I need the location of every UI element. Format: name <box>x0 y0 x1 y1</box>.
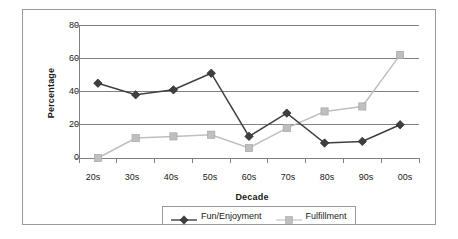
data-point-60s <box>245 144 252 151</box>
chart-frame: Percentage Decade 80 60 40 20 0 20s 30s … <box>22 9 436 225</box>
series-fulfillment <box>94 51 403 161</box>
plot-area <box>23 10 437 226</box>
series-line <box>98 55 400 158</box>
legend-entry-fulfillment: Fulfillment <box>276 211 347 221</box>
data-point-40s <box>169 86 177 94</box>
data-point-30s <box>132 134 139 141</box>
data-point-80s <box>321 108 328 115</box>
data-point-40s <box>170 133 177 140</box>
chart-legend: Fun/Enjoyment Fulfillment <box>162 206 356 225</box>
chart-figure: Percentage Decade 80 60 40 20 0 20s 30s … <box>0 0 458 239</box>
data-point-50s <box>208 131 215 138</box>
legend-entry-fun-enjoyment: Fun/Enjoyment <box>171 211 262 221</box>
legend-label-fun-enjoyment: Fun/Enjoyment <box>201 211 262 221</box>
data-point-20s <box>94 79 102 87</box>
legend-marker-square-icon <box>276 211 302 221</box>
data-point-90s <box>358 137 366 145</box>
data-point-20s <box>94 154 101 161</box>
data-point-60s <box>245 132 253 140</box>
data-point-50s <box>207 69 215 77</box>
data-point-70s <box>283 124 290 131</box>
legend-label-fulfillment: Fulfillment <box>306 211 347 221</box>
data-point-90s <box>359 103 366 110</box>
data-point-00s <box>396 121 404 129</box>
series-fun-enjoyment <box>94 69 405 147</box>
data-point-00s <box>397 51 404 58</box>
legend-marker-diamond-icon <box>171 211 197 221</box>
